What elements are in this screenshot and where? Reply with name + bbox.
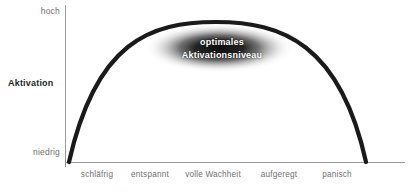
activation-curve-chart: hoch niedrig Aktivation optimales Aktiva… [0,0,413,191]
annotation-line-2: Aktivationsniveau [168,49,276,62]
y-axis-line [65,5,66,162]
x-axis-label-schlaefrig: schläfrig [81,170,113,179]
y-axis-top-label: hoch [28,6,60,16]
x-axis-label-aufgeregt: aufgeregt [261,170,297,179]
x-axis-label-volle-wachheit: volle Wachheit [185,170,241,179]
x-axis-label-panisch: panisch [322,170,352,179]
x-axis-label-entspannt: entspannt [131,170,169,179]
annotation-line-1: optimales [168,36,276,49]
optimal-zone-annotation: optimales Aktivationsniveau [168,36,276,62]
origin-tick-mark [65,158,66,167]
x-axis-line [65,162,405,163]
y-axis-title: Aktivation [8,78,54,88]
y-axis-bottom-label: niedrig [20,147,60,157]
